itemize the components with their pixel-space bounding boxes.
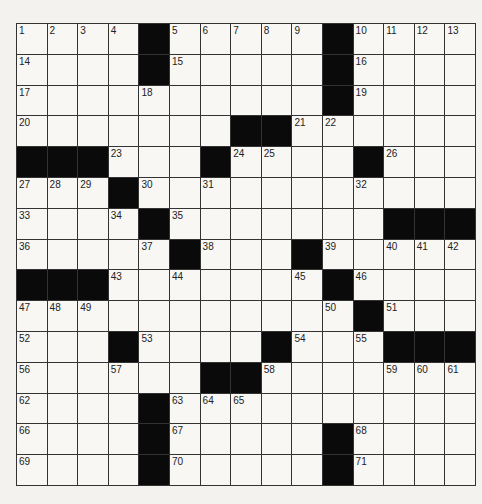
grid-cell[interactable]	[139, 363, 169, 393]
grid-cell[interactable]: 67	[170, 424, 200, 454]
grid-cell[interactable]	[78, 394, 108, 424]
grid-cell[interactable]	[170, 363, 200, 393]
grid-cell[interactable]	[48, 394, 78, 424]
grid-cell[interactable]	[139, 147, 169, 177]
grid-cell[interactable]	[48, 116, 78, 146]
grid-cell[interactable]	[231, 55, 261, 85]
grid-cell[interactable]	[201, 301, 231, 331]
grid-cell[interactable]: 3	[78, 24, 108, 54]
grid-cell[interactable]	[292, 209, 322, 239]
grid-cell[interactable]	[139, 301, 169, 331]
grid-cell[interactable]	[415, 455, 445, 485]
grid-cell[interactable]: 46	[354, 270, 384, 300]
grid-cell[interactable]	[354, 240, 384, 270]
grid-cell[interactable]: 41	[415, 240, 445, 270]
grid-cell[interactable]	[201, 209, 231, 239]
grid-cell[interactable]	[201, 86, 231, 116]
grid-cell[interactable]: 4	[109, 24, 139, 54]
grid-cell[interactable]	[109, 86, 139, 116]
grid-cell[interactable]	[323, 209, 353, 239]
grid-cell[interactable]	[292, 301, 322, 331]
grid-cell[interactable]: 35	[170, 209, 200, 239]
grid-cell[interactable]: 23	[109, 147, 139, 177]
grid-cell[interactable]	[170, 86, 200, 116]
grid-cell[interactable]	[262, 394, 292, 424]
grid-cell[interactable]	[415, 147, 445, 177]
grid-cell[interactable]	[445, 86, 475, 116]
grid-cell[interactable]	[78, 424, 108, 454]
grid-cell[interactable]	[231, 209, 261, 239]
grid-cell[interactable]: 45	[292, 270, 322, 300]
grid-cell[interactable]	[323, 147, 353, 177]
grid-cell[interactable]	[384, 270, 414, 300]
grid-cell[interactable]: 27	[17, 178, 47, 208]
grid-cell[interactable]: 62	[17, 394, 47, 424]
grid-cell[interactable]	[445, 301, 475, 331]
grid-cell[interactable]	[262, 55, 292, 85]
grid-cell[interactable]	[109, 455, 139, 485]
grid-cell[interactable]	[323, 178, 353, 208]
grid-cell[interactable]	[292, 455, 322, 485]
grid-cell[interactable]: 10	[354, 24, 384, 54]
grid-cell[interactable]	[109, 55, 139, 85]
grid-cell[interactable]	[231, 240, 261, 270]
grid-cell[interactable]: 59	[384, 363, 414, 393]
grid-cell[interactable]	[48, 363, 78, 393]
grid-cell[interactable]	[445, 147, 475, 177]
grid-cell[interactable]	[262, 86, 292, 116]
grid-cell[interactable]	[201, 424, 231, 454]
grid-cell[interactable]	[292, 424, 322, 454]
grid-cell[interactable]: 40	[384, 240, 414, 270]
grid-cell[interactable]	[262, 209, 292, 239]
grid-cell[interactable]: 63	[170, 394, 200, 424]
grid-cell[interactable]: 14	[17, 55, 47, 85]
grid-cell[interactable]: 37	[139, 240, 169, 270]
grid-cell[interactable]	[109, 116, 139, 146]
grid-cell[interactable]	[231, 178, 261, 208]
grid-cell[interactable]: 53	[139, 332, 169, 362]
grid-cell[interactable]	[48, 455, 78, 485]
grid-cell[interactable]: 44	[170, 270, 200, 300]
grid-cell[interactable]	[415, 301, 445, 331]
grid-cell[interactable]	[231, 270, 261, 300]
grid-cell[interactable]	[231, 332, 261, 362]
grid-cell[interactable]: 58	[262, 363, 292, 393]
grid-cell[interactable]	[262, 270, 292, 300]
grid-cell[interactable]: 15	[170, 55, 200, 85]
grid-cell[interactable]	[323, 394, 353, 424]
grid-cell[interactable]: 8	[262, 24, 292, 54]
grid-cell[interactable]	[262, 424, 292, 454]
grid-cell[interactable]	[262, 301, 292, 331]
grid-cell[interactable]	[109, 394, 139, 424]
grid-cell[interactable]: 54	[292, 332, 322, 362]
grid-cell[interactable]: 49	[78, 301, 108, 331]
grid-cell[interactable]: 6	[201, 24, 231, 54]
grid-cell[interactable]: 13	[445, 24, 475, 54]
grid-cell[interactable]	[292, 363, 322, 393]
grid-cell[interactable]	[170, 116, 200, 146]
grid-cell[interactable]	[292, 147, 322, 177]
grid-cell[interactable]	[415, 394, 445, 424]
grid-cell[interactable]	[292, 55, 322, 85]
grid-cell[interactable]	[445, 55, 475, 85]
grid-cell[interactable]	[445, 424, 475, 454]
grid-cell[interactable]: 69	[17, 455, 47, 485]
grid-cell[interactable]	[262, 455, 292, 485]
grid-cell[interactable]	[415, 270, 445, 300]
grid-cell[interactable]	[445, 394, 475, 424]
grid-cell[interactable]: 12	[415, 24, 445, 54]
grid-cell[interactable]: 9	[292, 24, 322, 54]
grid-cell[interactable]	[78, 240, 108, 270]
grid-cell[interactable]	[415, 178, 445, 208]
grid-cell[interactable]: 34	[109, 209, 139, 239]
grid-cell[interactable]	[170, 332, 200, 362]
grid-cell[interactable]: 39	[323, 240, 353, 270]
grid-cell[interactable]	[384, 178, 414, 208]
grid-cell[interactable]	[415, 55, 445, 85]
grid-cell[interactable]	[323, 332, 353, 362]
grid-cell[interactable]	[384, 116, 414, 146]
grid-cell[interactable]: 26	[384, 147, 414, 177]
grid-cell[interactable]	[445, 178, 475, 208]
grid-cell[interactable]	[354, 209, 384, 239]
grid-cell[interactable]: 33	[17, 209, 47, 239]
